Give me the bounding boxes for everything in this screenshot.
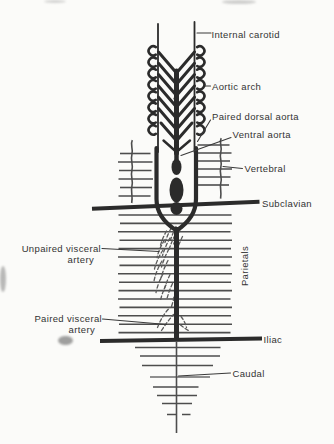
scan-artifact: [222, 0, 256, 4]
label-unpaired-visceral-line2: artery: [14, 254, 94, 266]
right-sympathetic-wavy-line: [220, 138, 221, 198]
midline-dot: [174, 97, 177, 100]
artery-diagram-art: [0, 0, 334, 444]
aortic-arch-curls-left: [149, 46, 156, 134]
heart-bulbs: [170, 148, 184, 215]
caudal-leader: [179, 373, 231, 376]
label-unpaired-visceral-line1: Unpaired visceral: [22, 243, 101, 254]
scan-artifact: [58, 336, 73, 345]
ventral-aorta-trunk: [159, 52, 195, 153]
label-paired-visceral-line1: Paired visceral: [34, 313, 102, 324]
label-internal-carotid: Internal carotid: [212, 29, 280, 41]
scan-artifact: [44, 0, 66, 3]
left-sympathetic-wavy-line: [131, 140, 132, 203]
scan-artifact: [0, 266, 6, 292]
caudal-segmental-lines: [135, 348, 221, 415]
label-aortic-arch: Aortic arch: [212, 81, 261, 93]
label-iliac: Iliac: [264, 334, 283, 346]
label-unpaired-visceral-artery: Unpaired visceral artery: [14, 243, 101, 266]
aortic-arch-curls-right: [197, 46, 204, 134]
label-paired-dorsal-aorta: Paired dorsal aorta: [212, 111, 299, 123]
label-parietals: Parietals: [239, 240, 251, 292]
label-paired-visceral-line2: artery: [14, 324, 95, 336]
label-caudal: Caudal: [233, 368, 265, 380]
label-vertebral: Vertebral: [245, 163, 286, 175]
iliac-artery-line: [100, 339, 262, 341]
midline-dot: [175, 102, 179, 106]
embryonic-artery-diagram: Internal carotid Aortic arch Paired dors…: [0, 0, 334, 444]
label-ventral-aorta: Ventral aorta: [233, 129, 291, 141]
paired-visceral-artery-arcs: [158, 297, 189, 331]
label-paired-visceral-artery: Paired visceral artery: [14, 313, 102, 336]
label-subclavian: Subclavian: [262, 198, 312, 210]
